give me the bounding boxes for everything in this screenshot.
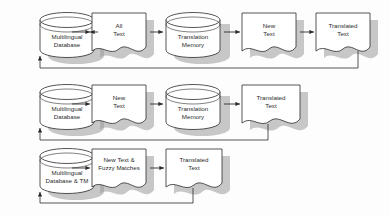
node-label: New xyxy=(113,94,126,101)
node-label: New xyxy=(263,22,276,29)
node-label: Database & TM xyxy=(46,177,89,184)
diagram-canvas: Multilingual Database All Text Translati… xyxy=(0,0,390,216)
node-label: Multilingual xyxy=(52,105,83,112)
node-r1-new-text: New Text xyxy=(242,13,304,59)
node-label: Translation xyxy=(178,105,209,112)
node-label: Multilingual xyxy=(52,33,83,40)
node-label: Translation xyxy=(178,33,209,40)
node-label: All xyxy=(116,22,123,29)
node-label: Text xyxy=(337,30,349,37)
node-r1-tm-translation-memory: Translation Memory xyxy=(166,13,230,65)
flowchart-diagram: Multilingual Database All Text Translati… xyxy=(0,0,390,216)
node-label: Multilingual xyxy=(52,169,83,176)
node-r1-translated-text: Translated Text xyxy=(316,13,378,59)
node-r2-new-text: New Text xyxy=(92,85,154,131)
node-label: Translated xyxy=(179,156,209,163)
node-label: Memory xyxy=(182,41,205,48)
node-r1-all-text: All Text xyxy=(92,13,154,59)
node-r3-new-text-fuzzy-matches: New Text & Fuzzy Matches xyxy=(92,149,154,195)
node-label: Text xyxy=(265,102,277,109)
node-label: Fuzzy Matches xyxy=(98,164,140,171)
node-r2-tm-translation-memory: Translation Memory xyxy=(166,85,230,137)
node-label: Text xyxy=(188,164,200,171)
node-label: Database xyxy=(54,113,81,120)
node-label: Text xyxy=(263,30,275,37)
node-label: Memory xyxy=(182,113,205,120)
node-label: New Text & xyxy=(103,156,135,163)
node-r2-translated-text: Translated Text xyxy=(242,85,308,131)
node-label: Translated xyxy=(256,94,286,101)
node-label: Text xyxy=(113,102,125,109)
node-label: Translated xyxy=(328,22,358,29)
node-r3-translated-text: Translated Text xyxy=(166,149,230,195)
node-label: Text xyxy=(113,30,125,37)
node-label: Database xyxy=(54,41,81,48)
